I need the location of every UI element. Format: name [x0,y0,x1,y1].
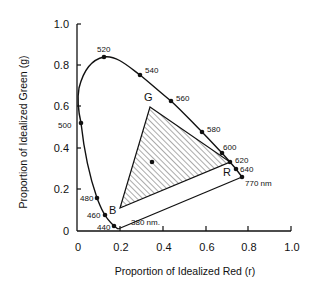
wavelength-label-440: 440 [97,223,111,232]
wavelength-label-480: 480 [80,194,94,203]
x-tick-label: 0.6 [199,241,214,253]
wavelength-label-560: 560 [176,94,190,103]
wavelength-label-380: 380 nm. [131,218,160,227]
wavelength-label-580: 580 [207,125,221,134]
y-tick-label: 0.4 [54,142,69,154]
x-tick-label: 0.4 [156,241,171,253]
gamut-triangle [120,107,230,208]
wavelength-label-620: 620 [235,156,249,165]
x-axis-title: Proportion of Idealized Red (r) [115,265,256,277]
y-tick-label: 0.8 [54,59,69,71]
white-point-marker [150,160,155,165]
wavelength-label-600: 600 [223,143,237,152]
y-tick-label: 0.6 [54,100,69,112]
vertex-label-g: G [144,91,153,103]
x-tick-label: 0.8 [241,241,256,253]
wavelength-label-460: 460 [87,211,101,220]
y-tick-label: 0 [63,225,69,237]
wavelength-label-500: 500 [58,121,72,130]
vertex-label-b: B [109,204,116,216]
y-axis-title: Proportion of Idealized Green (g) [17,56,29,209]
vertex-label-r: R [223,166,231,178]
y-tick-label: 0.2 [54,183,69,195]
x-tick-label: 0.2 [113,241,128,253]
x-tick-label: 1.0 [284,241,299,253]
wavelength-label-520: 520 [97,45,111,54]
y-tick-label: 1.0 [54,18,69,30]
wavelength-label-770: 770 nm [245,179,272,188]
wavelength-label-640: 640 [240,165,254,174]
chromaticity-chart: 1.0 0.8 0.6 0.4 0.2 0 0 0.2 0.4 0.6 0.8 … [0,0,314,289]
wavelength-label-540: 540 [145,66,159,75]
x-tick-label: 0 [75,241,81,253]
